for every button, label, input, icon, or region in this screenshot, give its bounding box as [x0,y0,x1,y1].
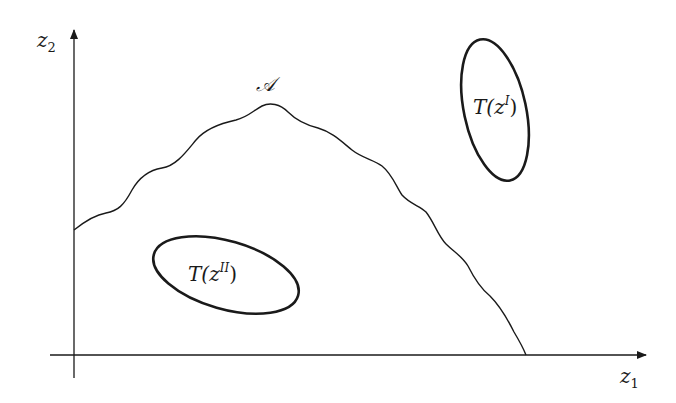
x-axis-label: z1 [620,364,639,388]
region-label: 𝒜 [256,72,275,96]
set-label-var: z [494,95,505,119]
set-label-t-z-i: T(zI) [473,95,517,119]
region-boundary-curve [74,104,526,355]
y-axis-label-sub: 2 [48,40,56,55]
diagram-canvas: z2 z1 𝒜 T(zI) T(zII) [0,0,676,403]
set-label-suffix: ) [229,262,237,286]
set-label-t-z-ii: T(zII) [188,262,237,286]
y-axis-label: z2 [37,28,56,52]
set-label-suffix: ) [509,95,517,119]
x-axis-label-sub: 1 [631,376,639,391]
y-axis-label-var: z [37,28,48,52]
diagram-svg [0,0,676,403]
set-label-prefix: T( [473,95,494,119]
set-label-prefix: T( [188,262,209,286]
set-label-var: z [209,262,220,286]
set-label-sup: I [505,94,510,108]
x-axis-label-var: z [620,364,631,388]
set-label-sup: II [220,261,229,275]
